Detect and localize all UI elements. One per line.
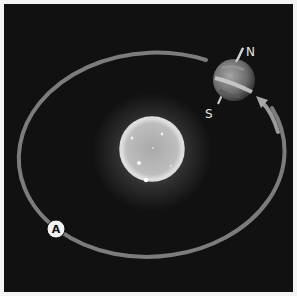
sun-body bbox=[120, 117, 184, 181]
orbit-diagram: N S A bbox=[0, 0, 297, 296]
sun bbox=[92, 92, 212, 212]
position-marker-a: A bbox=[47, 220, 65, 238]
north-label: N bbox=[246, 45, 255, 59]
marker-label: A bbox=[52, 223, 61, 236]
south-label: S bbox=[205, 107, 213, 121]
earth bbox=[213, 59, 255, 101]
